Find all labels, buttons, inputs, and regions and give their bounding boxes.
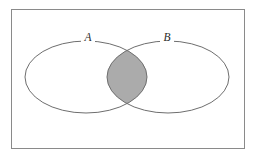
set-b-label: B [163, 31, 170, 43]
venn-diagram-figure: A B [0, 0, 256, 159]
set-a-label: A [83, 31, 92, 43]
venn-diagram-canvas: A B [0, 0, 256, 159]
